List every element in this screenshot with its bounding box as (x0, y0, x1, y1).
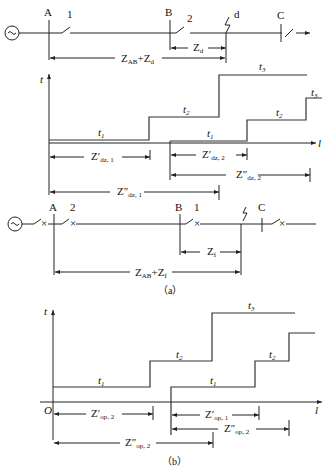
svg-text:×: × (194, 217, 200, 229)
l-axis-label: l (318, 137, 321, 149)
fault-label: d (234, 8, 240, 20)
dim-zop2-double-right: Z″op, 2 (224, 422, 250, 436)
dim-zdz1-double: Z″dz, 1 (117, 185, 142, 199)
svg-text:t3: t3 (248, 299, 255, 313)
bus-c-label: C (277, 9, 284, 21)
breaker-a-left-icon (34, 219, 41, 224)
breaker-2b-icon (62, 219, 69, 224)
step-t2: t2 (183, 103, 190, 117)
breaker-c-icon (285, 29, 293, 37)
svg-text:×: × (279, 217, 285, 229)
fault-lightning-icon-2 (243, 207, 247, 221)
dim-zd: Zd (193, 41, 204, 55)
time-chart-a: t l t1 t2 t3 t1 t2 t3 Z′dz, 1 Z′dz, 2 Z″… (40, 60, 322, 200)
ac-symbol-icon-2 (11, 223, 19, 226)
svg-text:×: × (70, 217, 76, 229)
relay-2-time-step (170, 98, 322, 141)
caption-a: （a） (158, 285, 182, 296)
breaker-1-icon (62, 27, 70, 33)
dim-zab-zd: ZAB+Zd (121, 52, 154, 66)
bus-b-label-2: B (175, 201, 182, 213)
dim-zab-zf: ZAB+Zf (135, 266, 167, 280)
bus-a-label-2: A (49, 201, 57, 213)
t-axis-label-b: t (44, 305, 48, 317)
time-chart-b: t l O t1 t2 t3 t1 t2 Z′op, 2 Z′op, 1 Z″o… (40, 299, 322, 467)
step-t2-r2: t2 (276, 106, 283, 120)
svg-text:t1: t1 (210, 374, 217, 388)
dim-zdz2-double: Z″dz, 2 (236, 168, 261, 182)
breaker-1b-label: 1 (194, 201, 200, 213)
breaker-1-label: 1 (67, 8, 73, 20)
fault-lightning-icon (225, 17, 230, 33)
dim-zop2-prime: Z′op, 2 (91, 407, 115, 421)
origin-label: O (44, 404, 52, 416)
single-line-diagram-a: A 1 B 2 d C Zd ZAB+Zd (5, 6, 310, 66)
t-axis-label: t (40, 73, 44, 85)
breaker-2-icon (176, 27, 184, 33)
caption-b: （b） (162, 456, 187, 467)
dim-zop1-prime: Z′op, 1 (205, 408, 229, 422)
relay-1-time-step-b (53, 313, 295, 387)
x-mark: × (41, 217, 47, 229)
l-axis-label-b: l (315, 404, 318, 416)
relay-1-time-step (49, 75, 307, 140)
breaker-2-label: 2 (187, 12, 193, 24)
single-line-diagram-a2: × A 2 × B 1 × C × Zf ZAB+Zf （a） (8, 201, 316, 296)
bus-a-label: A (44, 6, 52, 18)
dim-zop2-double: Z″op, 2 (125, 436, 151, 450)
ac-symbol-icon (8, 32, 16, 35)
bus-c-label-2: C (258, 201, 265, 213)
breaker-1b-icon (186, 219, 193, 224)
step-t3-r2: t3 (311, 86, 318, 100)
svg-text:t2: t2 (269, 348, 276, 362)
svg-text:t2: t2 (176, 348, 183, 362)
protection-coordination-diagram: A 1 B 2 d C Zd ZAB+Zd t l t1 t2 t3 (0, 0, 327, 472)
relay-2-time-step-b (171, 333, 315, 435)
dim-zdz2-prime: Z′dz, 2 (202, 148, 225, 162)
step-t1-r2: t1 (207, 127, 214, 141)
bus-b-label: B (165, 6, 172, 18)
dim-zdz1-prime: Z′dz, 1 (91, 150, 114, 164)
step-t3: t3 (259, 60, 266, 74)
dim-zf: Zf (207, 245, 217, 259)
breaker-2b-label: 2 (70, 201, 76, 213)
step-t1: t1 (98, 126, 105, 140)
svg-text:t1: t1 (98, 374, 105, 388)
